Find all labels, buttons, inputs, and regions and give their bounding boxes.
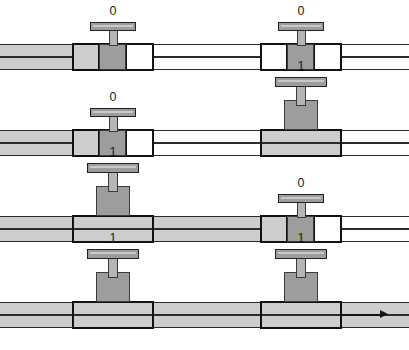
valve-outlet-chamber: [314, 45, 340, 69]
valve-state-label: 0: [99, 91, 127, 104]
valve-handwheel[interactable]: [90, 108, 136, 117]
valve-center-line: [262, 314, 340, 316]
pipeline-row: 10: [0, 186, 409, 274]
valve-logic-figure: 00011011: [0, 0, 409, 350]
pipeline-row: 00: [0, 14, 409, 102]
valve-state-label: 0: [287, 177, 315, 190]
valve-state-label: 1: [99, 232, 127, 245]
valve-handwheel[interactable]: [278, 22, 324, 31]
valve-state-label: 1: [287, 60, 315, 73]
valve-inlet-chamber: [262, 217, 287, 241]
handle-highlight: [281, 197, 321, 199]
valve-stem: [296, 86, 306, 106]
valve-inlet-chamber: [74, 45, 99, 69]
valve-center-line: [74, 314, 152, 316]
handle-highlight: [90, 166, 136, 168]
handle-highlight: [90, 252, 136, 254]
valve-stem: [108, 258, 118, 278]
valve-state-label: 0: [287, 5, 315, 18]
valve-stem: [297, 30, 306, 46]
valve-state-label: 0: [99, 5, 127, 18]
valve-outlet-chamber: [126, 45, 152, 69]
valve-stem: [297, 202, 306, 218]
valve-handwheel[interactable]: [275, 77, 327, 87]
valve-inlet-chamber: [262, 45, 287, 69]
handle-highlight: [93, 25, 133, 27]
valve-stem: [296, 258, 306, 278]
pipe-center-line: [0, 228, 409, 230]
valve-center-line: [74, 228, 152, 230]
valve-assembly[interactable]: 1: [72, 272, 154, 350]
valve-state-label: 1: [287, 232, 315, 245]
valve-plug-closed: [99, 44, 126, 70]
valve-inlet-chamber: [74, 131, 99, 155]
flow-arrow-shaft: [340, 314, 381, 316]
handle-highlight: [281, 25, 321, 27]
handle-highlight: [93, 111, 133, 113]
valve-outlet-chamber: [314, 217, 340, 241]
handle-highlight: [278, 252, 324, 254]
valve-stem: [109, 30, 118, 46]
handle-highlight: [278, 80, 324, 82]
valve-stem: [108, 172, 118, 192]
valve-state-label: 1: [99, 146, 127, 159]
pipe-center-line: [0, 56, 409, 58]
valve-stem: [109, 116, 118, 132]
valve-handwheel[interactable]: [278, 194, 324, 203]
valve-handwheel[interactable]: [87, 249, 139, 259]
valve-assembly[interactable]: 1: [260, 100, 342, 188]
valve-handwheel[interactable]: [87, 163, 139, 173]
pipeline-row: 11: [0, 272, 409, 350]
valve-outlet-chamber: [126, 131, 152, 155]
valve-center-line: [262, 142, 340, 144]
valve-assembly[interactable]: 0: [72, 14, 154, 102]
pipe-center-line: [0, 142, 409, 144]
valve-handwheel[interactable]: [275, 249, 327, 259]
pipeline-row: 01: [0, 100, 409, 188]
flow-arrow-head: [380, 310, 388, 318]
valve-handwheel[interactable]: [90, 22, 136, 31]
valve-assembly[interactable]: 1: [260, 272, 342, 350]
